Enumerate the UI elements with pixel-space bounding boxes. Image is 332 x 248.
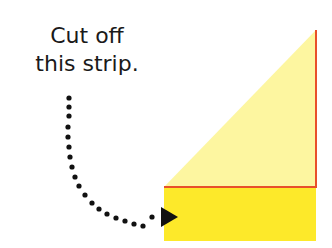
dotted-arrow-path xyxy=(65,95,154,228)
folded-triangle xyxy=(164,30,316,187)
cut-strip xyxy=(164,187,316,241)
paper-fold-diagram xyxy=(0,0,332,248)
